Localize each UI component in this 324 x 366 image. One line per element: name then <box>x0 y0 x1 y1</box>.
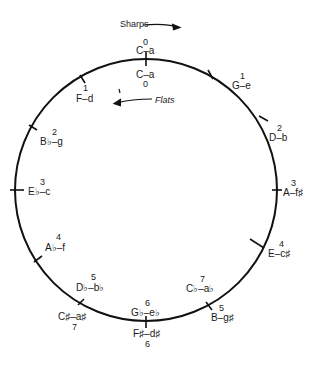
flats-arrow <box>114 89 152 106</box>
flat-7-keys: C♭–a♭ <box>186 284 214 294</box>
flat-5-keys: D♭–b♭ <box>76 283 104 293</box>
flat-4-keys: A♭–f <box>45 243 65 253</box>
circle-of-fifths-diagram <box>0 0 324 366</box>
flat-1-count: 1 <box>83 84 88 93</box>
flat-2-keys: B♭–g <box>40 137 63 147</box>
flat-5-count: 5 <box>91 273 96 282</box>
sharp-1-keys: G–e <box>232 81 251 91</box>
flat-1-keys: F–d <box>76 94 93 104</box>
sharp-4-keys: E–c♯ <box>268 249 290 259</box>
sharp-6-keys: F♯–d♯ <box>133 329 160 339</box>
top-inner-count: 0 <box>143 80 148 89</box>
flats-label: Flats <box>155 95 175 105</box>
flat-6-keys: G♭–e♭ <box>131 308 160 318</box>
flat-3-keys: E♭–c <box>28 187 50 197</box>
sharps-label: Sharps <box>120 19 149 29</box>
top-outer-keys: C–a <box>136 46 154 56</box>
sharp-6-count: 6 <box>145 340 150 349</box>
sharp-3-keys: A–f♯ <box>283 188 303 198</box>
sharp-2-keys: D–b <box>269 133 287 143</box>
flat-4-count: 4 <box>56 233 61 242</box>
tick-marks <box>10 52 282 328</box>
sharp-7-count: 7 <box>72 323 77 332</box>
key-circle <box>15 59 277 321</box>
sharp-7-keys: C♯–a♯ <box>58 312 86 322</box>
sharp-5-keys: B–g♯ <box>211 313 234 323</box>
